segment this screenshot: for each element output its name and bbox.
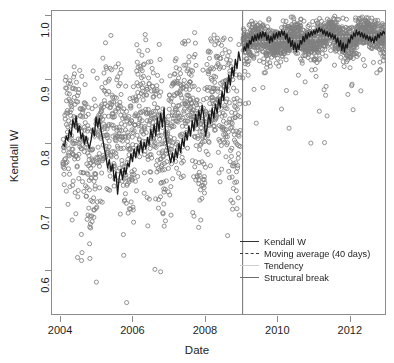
y-tick-label: 0.6: [39, 268, 51, 302]
x-tick-label: 2004: [38, 324, 82, 336]
x-axis-title: Date: [0, 344, 394, 356]
x-tick-label: 2008: [183, 324, 227, 336]
x-tick-mark: [277, 316, 278, 322]
legend-item-label: Kendall W: [264, 236, 306, 248]
chart-figure: 1.00.90.80.70.6 20042006200820102012 Dat…: [0, 0, 394, 363]
legend-item-label: Tendency: [264, 260, 303, 272]
legend-line-icon: [240, 277, 259, 278]
x-tick-mark: [205, 316, 206, 322]
legend-item: Tendency: [240, 260, 380, 272]
legend-item: Moving average (40 days): [240, 248, 380, 260]
legend-item: Structural break: [240, 272, 380, 284]
legend-line-icon: [240, 241, 259, 242]
x-tick-label: 2010: [255, 324, 299, 336]
legend-item-label: Structural break: [264, 272, 329, 284]
legend-item: Kendall W: [240, 236, 380, 248]
y-tick-label: 1.0: [39, 13, 51, 47]
x-tick-label: 2006: [110, 324, 154, 336]
x-tick-mark: [350, 316, 351, 322]
y-axis-title: Kendall W: [8, 111, 20, 201]
y-tick-label: 0.8: [39, 141, 51, 175]
chart-legend: Kendall WMoving average (40 days)Tendenc…: [240, 236, 380, 284]
x-tick-mark: [132, 316, 133, 322]
x-tick-label: 2012: [328, 324, 372, 336]
x-tick-mark: [60, 316, 61, 322]
y-tick-label: 0.7: [39, 205, 51, 239]
legend-line-icon: [240, 253, 259, 254]
y-tick-label: 0.9: [39, 77, 51, 111]
legend-item-label: Moving average (40 days): [264, 248, 370, 260]
legend-line-icon: [240, 265, 259, 266]
